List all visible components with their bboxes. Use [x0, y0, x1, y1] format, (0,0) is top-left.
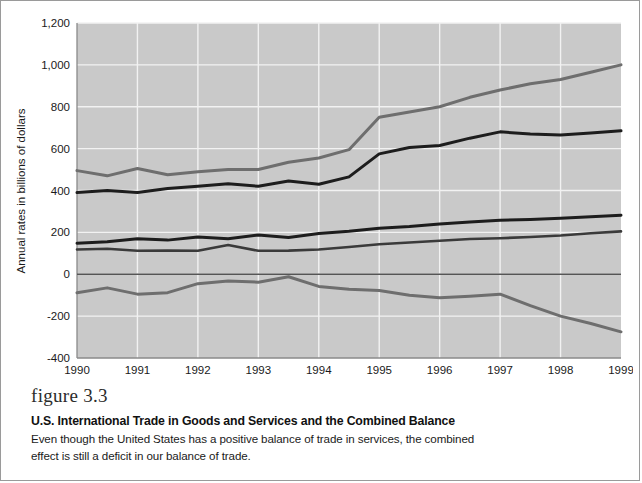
figure-number-label: figure 3.3: [31, 385, 611, 407]
y-tick-label: 800: [51, 101, 70, 113]
y-axis-title: Annual rates in billions of dollars: [15, 108, 27, 273]
x-tick-label: 1997: [487, 364, 513, 376]
x-tick-label: 1993: [246, 364, 272, 376]
x-tick-label: 1994: [306, 364, 332, 376]
caption-block: figure 3.3 U.S. International Trade in G…: [31, 385, 611, 465]
y-tick-label: -200: [47, 310, 70, 322]
trade-line-chart: -400-20002004006008001,0001,200 19901991…: [9, 7, 633, 379]
chart-panel: -400-20002004006008001,0001,200 19901991…: [9, 7, 633, 379]
y-tick-label: 0: [64, 268, 70, 280]
x-tick-label: 1990: [64, 364, 90, 376]
y-tick-label: 1,200: [41, 17, 70, 29]
x-tick-label: 1999: [608, 364, 633, 376]
y-tick-label: 600: [51, 143, 70, 155]
figure-title: U.S. International Trade in Goods and Se…: [31, 414, 611, 428]
x-tick-label: 1996: [427, 364, 453, 376]
y-tick-label: 200: [51, 226, 70, 238]
x-tick-label: 1992: [185, 364, 211, 376]
x-tick-label: 1998: [548, 364, 574, 376]
figure-description: Even though the United States has a posi…: [31, 431, 499, 465]
figure-card: -400-20002004006008001,0001,200 19901991…: [0, 0, 640, 481]
y-tick-label: 400: [51, 185, 70, 197]
x-tick-label: 1995: [366, 364, 392, 376]
y-tick-label: -400: [47, 352, 70, 364]
x-axis-ticks: 1990199119921993199419951996199719981999: [64, 364, 633, 376]
y-tick-label: 1,000: [41, 59, 70, 71]
x-tick-label: 1991: [125, 364, 151, 376]
y-axis-ticks: -400-20002004006008001,0001,200: [41, 17, 70, 364]
